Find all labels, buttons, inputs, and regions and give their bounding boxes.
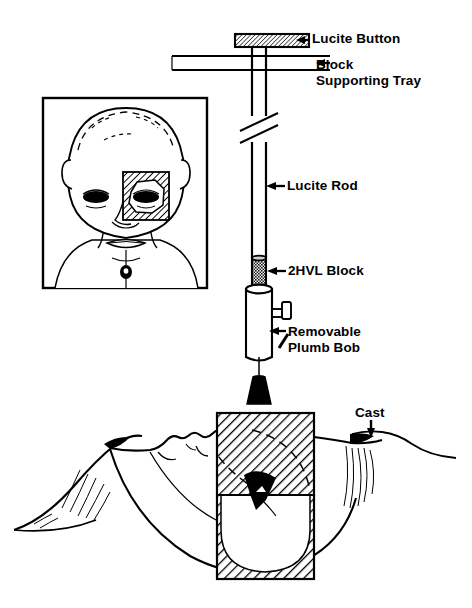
label-block-supporting-tray-line2: Supporting Tray xyxy=(316,73,421,88)
leader-arrow-lucite-rod xyxy=(266,182,285,190)
label-cast: Cast xyxy=(355,405,385,421)
figure-illustration xyxy=(0,0,472,608)
leader-arrow-hvl-block xyxy=(267,267,286,275)
inset-infant-face xyxy=(43,98,207,288)
cast-shading-left xyxy=(34,470,110,528)
profile-infant-head xyxy=(14,413,456,579)
label-lucite-rod: Lucite Rod xyxy=(287,178,358,194)
thumbscrew[interactable] xyxy=(272,302,291,319)
figure-root: Lucite Button BlockSupporting Tray Lucit… xyxy=(0,0,472,608)
label-removable-plumb-bob-line2: Plumb Bob xyxy=(288,340,360,355)
lucite-rod xyxy=(240,47,278,258)
cast-shading-right xyxy=(344,446,374,508)
label-lucite-button: Lucite Button xyxy=(312,31,400,47)
label-block-supporting-tray: BlockSupporting Tray xyxy=(316,57,421,89)
label-removable-plumb-bob: RemovablePlumb Bob xyxy=(288,324,361,356)
label-block-supporting-tray-line1: Block xyxy=(316,57,353,72)
inset-radiation-field xyxy=(123,172,169,220)
plumb-bob xyxy=(247,357,271,404)
block-holder-cylinder xyxy=(246,285,291,361)
rod-break-symbol xyxy=(240,112,278,144)
label-removable-plumb-bob-line1: Removable xyxy=(288,324,361,339)
label-hvl-block: 2HVL Block xyxy=(288,263,364,279)
